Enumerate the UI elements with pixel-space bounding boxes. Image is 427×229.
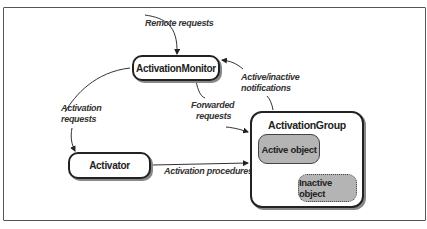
edge-label-remote-requests: Remote requests <box>145 18 214 29</box>
edge-label-activation-requests-1: Activation <box>61 103 102 114</box>
node-label: Activator <box>89 160 130 171</box>
node-label: Inactive object <box>299 177 356 199</box>
edge-label-activation-procedures: Activation procedures <box>164 166 253 177</box>
edge-label-activation-requests-2: requests <box>61 114 96 125</box>
node-active-object[interactable]: Active object <box>258 134 320 164</box>
edge-label-forwarded-2: requests <box>196 111 231 122</box>
node-activation-monitor[interactable]: ActivationMonitor <box>132 55 220 81</box>
node-activator[interactable]: Activator <box>68 152 151 179</box>
edge-label-notifications-1: Active/inactive <box>241 72 300 83</box>
node-label: ActivationMonitor <box>136 63 216 74</box>
node-inactive-object[interactable]: Inactive object <box>298 174 357 202</box>
edge-label-notifications-2: notifications <box>241 83 291 94</box>
edge-label-forwarded-1: Forwarded <box>191 100 234 111</box>
node-label: Active object <box>261 144 316 155</box>
node-label: ActivationGroup <box>268 119 346 131</box>
